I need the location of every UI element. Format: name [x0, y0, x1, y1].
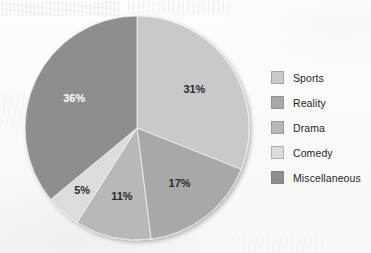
- legend-item-label: Miscellaneous: [293, 172, 361, 184]
- pie-slice-value-label: 17%: [169, 177, 191, 189]
- legend-swatch-icon: [271, 121, 284, 134]
- pie-slice-value-label: 5%: [74, 184, 90, 196]
- chart-legend: SportsRealityDramaComedyMiscellaneous: [271, 70, 371, 185]
- pie-chart: 31%17%11%5%36%: [0, 0, 262, 253]
- legend-swatch-icon: [271, 96, 284, 109]
- legend-swatch-icon: [271, 171, 284, 184]
- pie-chart-svg: 31%17%11%5%36%: [0, 0, 262, 253]
- legend-item[interactable]: Reality: [271, 95, 371, 110]
- legend-item[interactable]: Drama: [271, 120, 371, 135]
- legend-item-label: Reality: [293, 97, 326, 109]
- legend-swatch-icon: [271, 146, 284, 159]
- legend-item-label: Sports: [293, 72, 324, 84]
- pie-slices-group: [25, 16, 249, 240]
- legend-item[interactable]: Miscellaneous: [271, 170, 371, 185]
- pie-slice-value-label: 31%: [183, 83, 205, 95]
- pie-slice-value-label: 11%: [111, 190, 133, 202]
- pie-slice-value-label: 36%: [63, 92, 85, 104]
- legend-item-label: Comedy: [293, 147, 333, 159]
- page-background: 31%17%11%5%36% SportsRealityDramaComedyM…: [0, 0, 371, 253]
- legend-swatch-icon: [271, 71, 284, 84]
- legend-item[interactable]: Sports: [271, 70, 371, 85]
- legend-item[interactable]: Comedy: [271, 145, 371, 160]
- legend-item-label: Drama: [293, 122, 325, 134]
